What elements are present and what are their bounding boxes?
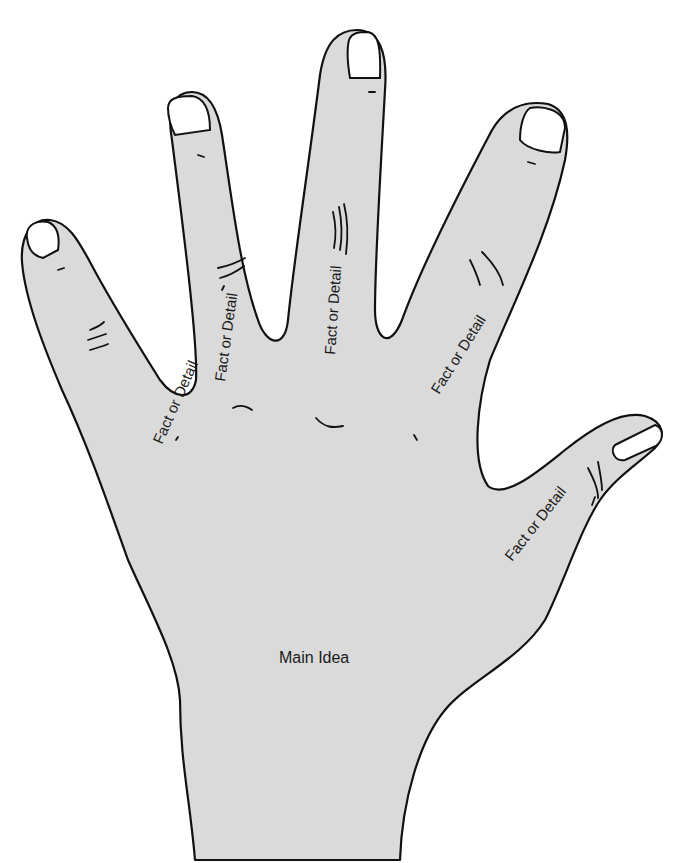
hand-diagram: Fact or Detail Fact or Detail Fact or De… [0,0,686,863]
palm-label-main-idea: Main Idea [279,649,349,666]
hand-outline [22,30,662,860]
nail-pinky [27,222,59,258]
nail-index [520,107,565,152]
nail-ring [168,96,210,135]
nail-middle [348,32,381,78]
hand-illustration: Fact or Detail Fact or Detail Fact or De… [0,0,686,863]
